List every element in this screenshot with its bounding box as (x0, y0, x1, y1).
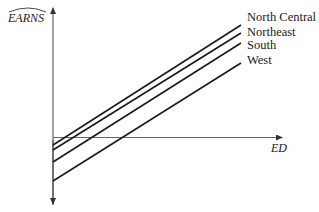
line-south (53, 43, 241, 162)
line-west (53, 63, 241, 181)
legend-west: West (247, 53, 272, 67)
regression-diagram: EARNS ED North Central Northeast South W… (0, 0, 319, 212)
line-north-central (53, 25, 241, 145)
y-axis-label: EARNS (7, 8, 46, 25)
legend-northeast: Northeast (247, 25, 296, 39)
legend-north-central: North Central (247, 10, 317, 24)
legend-south: South (247, 38, 277, 52)
x-axis-label: ED (270, 141, 287, 155)
svg-text:EARNS: EARNS (7, 11, 44, 25)
line-northeast (53, 33, 241, 150)
